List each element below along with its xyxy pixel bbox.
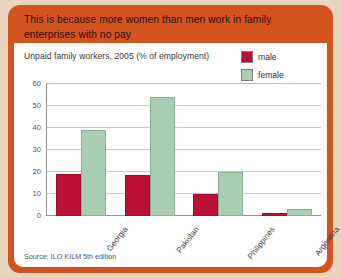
legend-label-male: male: [258, 52, 277, 62]
x-tick-label-philippines: Philippines: [246, 225, 277, 261]
legend-item-male: male: [241, 49, 315, 65]
x-tick-label-georgia: Georgia: [105, 225, 130, 253]
y-tick-label: 40: [21, 123, 41, 132]
bar-groups: [47, 84, 321, 216]
bar-female-pakistan: [150, 97, 175, 216]
card-header-text: This is because more women than men work…: [24, 12, 320, 42]
y-tick-label: 50: [21, 101, 41, 110]
bar-female-philippines: [218, 172, 243, 216]
bar-female-argentina: [287, 209, 312, 216]
legend-swatch-female: [241, 69, 253, 81]
bar-group: [47, 84, 116, 216]
bar-male-argentina: [262, 213, 287, 216]
y-tick-label: 20: [21, 167, 41, 176]
y-tick-label: 0: [21, 211, 41, 220]
bar-group: [116, 84, 185, 216]
y-axis: 0102030405060: [24, 83, 44, 215]
chart-panel: Unpaid family workers, 2005 (% of employ…: [14, 43, 327, 267]
bar-group: [184, 84, 253, 216]
info-card: This is because more women than men work…: [8, 5, 333, 273]
plot-area: 0102030405060: [24, 83, 320, 223]
bar-male-pakistan: [125, 175, 150, 216]
chart-title: Unpaid family workers, 2005 (% of employ…: [24, 51, 209, 61]
bar-female-georgia: [81, 130, 106, 216]
plot-canvas: [46, 83, 321, 216]
y-tick-label: 60: [21, 79, 41, 88]
legend-label-female: female: [258, 70, 284, 80]
bar-group: [253, 84, 322, 216]
bar-male-philippines: [193, 194, 218, 216]
legend-swatch-male: [241, 51, 253, 63]
x-tick-label-pakistan: Pakistan: [174, 225, 200, 255]
y-tick-label: 30: [21, 145, 41, 154]
source-note: Source: ILO KILM 5th edition: [24, 252, 116, 261]
bar-male-georgia: [56, 174, 81, 216]
y-tick-label: 10: [21, 189, 41, 198]
legend-item-female: female: [241, 67, 315, 83]
x-tick-label-argentina: Argentina: [313, 225, 341, 258]
chart-legend: male female: [241, 49, 315, 85]
